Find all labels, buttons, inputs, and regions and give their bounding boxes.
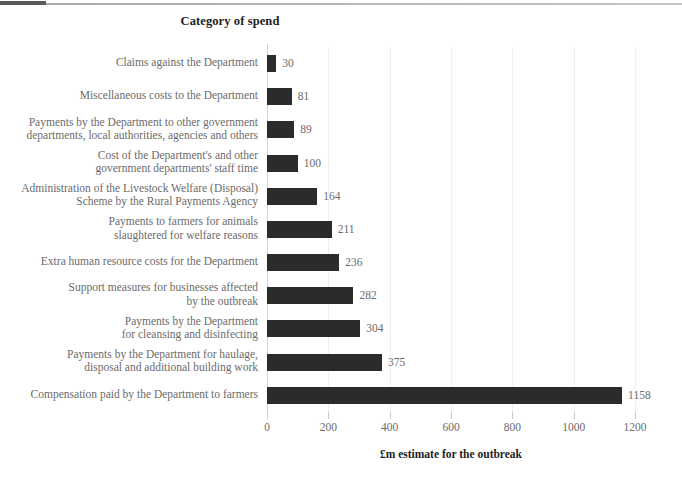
bar-value-label: 164 xyxy=(317,188,340,205)
category-label: Claims against the Department xyxy=(0,56,258,69)
bar-value-label: 236 xyxy=(339,254,362,271)
bar xyxy=(267,287,353,304)
category-label: Compensation paid by the Department to f… xyxy=(0,388,258,401)
bar-row: 30 xyxy=(267,47,635,80)
axis-tick-label: 800 xyxy=(482,421,542,433)
category-label: Payments by the Department to other gove… xyxy=(0,116,258,143)
axis-tick xyxy=(635,412,636,419)
bar xyxy=(267,88,292,105)
bar xyxy=(267,55,276,72)
bar-row: 304 xyxy=(267,312,635,345)
bar xyxy=(267,221,332,238)
bar xyxy=(267,254,339,271)
bar-row: 236 xyxy=(267,246,635,279)
value-axis-title: £m estimate for the outbreak xyxy=(267,448,635,460)
category-label: Payments by the Department for haulage, … xyxy=(0,348,258,375)
bar xyxy=(267,188,317,205)
bar-value-label: 100 xyxy=(298,155,321,172)
header-rule xyxy=(0,3,682,5)
bar-value-label: 1158 xyxy=(622,387,651,404)
bar xyxy=(267,320,360,337)
bar-row: 89 xyxy=(267,113,635,146)
bar-row: 1158 xyxy=(267,379,635,412)
bar-row: 81 xyxy=(267,80,635,113)
axis-tick-label: 1000 xyxy=(544,421,604,433)
axis-tick-label: 0 xyxy=(237,421,297,433)
bar-value-label: 304 xyxy=(360,320,383,337)
plot-area: 3081891001642112362823043751158 xyxy=(267,47,635,412)
chart-title: Category of spend xyxy=(0,14,460,29)
axis-tick xyxy=(267,412,268,419)
category-label: Administration of the Livestock Welfare … xyxy=(0,182,258,209)
bar-value-label: 211 xyxy=(332,221,355,238)
bar-row: 375 xyxy=(267,346,635,379)
bar xyxy=(267,155,298,172)
bar-value-label: 89 xyxy=(294,121,312,138)
header-rule-marker xyxy=(0,1,46,5)
axis-tick xyxy=(574,412,575,419)
category-label: Cost of the Department's and other gover… xyxy=(0,149,258,176)
bar-row: 282 xyxy=(267,279,635,312)
bar-row: 100 xyxy=(267,147,635,180)
axis-tick xyxy=(328,412,329,419)
bar xyxy=(267,354,382,371)
category-label: Support measures for businesses affected… xyxy=(0,281,258,308)
axis-tick xyxy=(512,412,513,419)
axis-tick xyxy=(451,412,452,419)
axis-tick-label: 400 xyxy=(360,421,420,433)
gridline xyxy=(635,47,636,412)
bar-value-label: 375 xyxy=(382,354,405,371)
category-axis-labels: Claims against the DepartmentMiscellaneo… xyxy=(0,47,262,412)
category-label: Payments to farmers for animals slaughte… xyxy=(0,215,258,242)
bar-row: 211 xyxy=(267,213,635,246)
axis-tick xyxy=(390,412,391,419)
bar xyxy=(267,387,622,404)
category-label: Miscellaneous costs to the Department xyxy=(0,89,258,102)
axis-tick-label: 600 xyxy=(421,421,481,433)
category-label: Payments by the Department for cleansing… xyxy=(0,315,258,342)
axis-tick-label: 200 xyxy=(298,421,358,433)
axis-tick-label: 1200 xyxy=(605,421,665,433)
bar-row: 164 xyxy=(267,180,635,213)
category-label: Extra human resource costs for the Depar… xyxy=(0,255,258,268)
bar-value-label: 282 xyxy=(353,287,376,304)
bar-value-label: 81 xyxy=(292,88,310,105)
bar xyxy=(267,121,294,138)
bar-value-label: 30 xyxy=(276,55,294,72)
